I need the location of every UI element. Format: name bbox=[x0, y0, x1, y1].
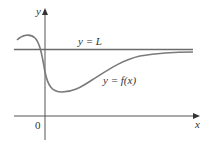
x-axis bbox=[14, 113, 200, 119]
function-graph-figure: y x 0 y = L y = f(x) bbox=[0, 0, 211, 147]
x-axis-label: x bbox=[194, 118, 200, 130]
origin-label: 0 bbox=[35, 119, 41, 131]
graph-canvas: y x 0 y = L y = f(x) bbox=[0, 0, 211, 147]
y-axis-arrow-icon bbox=[42, 8, 48, 15]
asymptote-label: y = L bbox=[77, 35, 102, 47]
y-axis-label: y bbox=[35, 5, 41, 17]
function-label: y = f(x) bbox=[102, 74, 136, 87]
